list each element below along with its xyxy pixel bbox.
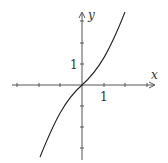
x-unit-label: 1 — [100, 90, 108, 104]
y-unit-label: 1 — [70, 58, 78, 72]
function-graph: y x 1 1 — [0, 0, 168, 163]
x-axis-label: x — [151, 68, 158, 82]
y-axis-label: y — [87, 8, 95, 22]
